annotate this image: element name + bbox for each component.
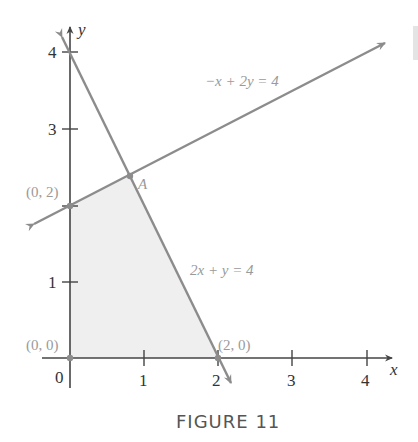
vertex-0-2	[67, 203, 73, 209]
vertex-A	[127, 173, 133, 179]
figure-caption: FIGURE 11	[176, 411, 280, 432]
vertex-2-0	[215, 355, 221, 361]
equation-label-1: −x + 2y = 4	[205, 73, 279, 89]
x-tick-label-2: 2	[212, 371, 221, 390]
point-label-0-0: (0, 0)	[26, 337, 59, 354]
y-tick-label-1: 1	[48, 273, 57, 292]
x-tick-label-1: 1	[139, 371, 148, 390]
line-neg-x-plus-2y-eq-4	[34, 43, 385, 224]
x-axis-label: x	[389, 360, 398, 379]
page-edge-marker	[413, 26, 418, 60]
equation-label-2: 2x + y = 4	[190, 262, 254, 278]
point-label-2-0: (2, 0)	[218, 337, 251, 354]
point-label-A: A	[137, 176, 148, 192]
x-tick-label-4: 4	[361, 371, 370, 390]
linear-programming-figure: 0 1 2 3 4 1 3 4 x y (0, 2) A (0, 0) (2, …	[0, 0, 418, 442]
x-tick-label-0: 0	[55, 368, 64, 387]
point-label-0-2: (0, 2)	[26, 184, 59, 201]
y-tick-label-3: 3	[48, 120, 57, 139]
x-tick-label-3: 3	[287, 371, 296, 390]
y-tick-label-4: 4	[48, 43, 57, 62]
y-axis-label: y	[76, 20, 86, 39]
vertex-0-0	[67, 355, 73, 361]
